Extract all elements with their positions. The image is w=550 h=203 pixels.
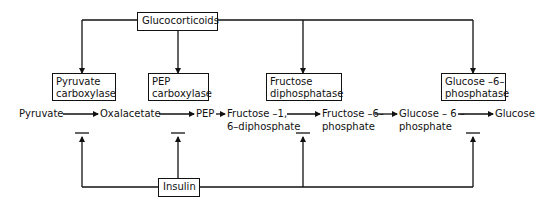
metabolite-label: 6–diphosphate xyxy=(227,121,300,134)
enzyme-pep-carboxylase: PEP carboxylase xyxy=(148,73,209,101)
metabolite-pep: PEP xyxy=(196,108,214,121)
metabolite-fructose-6-phosphate: Fructose –6– phosphate xyxy=(322,108,384,133)
enzyme-label-line1: Fructose xyxy=(270,76,338,88)
insulin-box: Insulin xyxy=(158,178,200,197)
metabolite-label: Glucose xyxy=(495,108,535,121)
diagram-connectors xyxy=(0,0,550,203)
enzyme-label-line2: carboxylase xyxy=(56,88,112,100)
metabolite-label: Glucose – 6 – xyxy=(399,108,465,121)
enzyme-label-line2: diphosphatase xyxy=(270,88,338,100)
enzyme-label-line2: carboxylase xyxy=(152,88,205,100)
enzyme-fructose-diphosphatase: Fructose diphosphatase xyxy=(266,73,342,101)
metabolite-fructose-1-6-diphosphate: Fructose –1, 6–diphosphate xyxy=(227,108,300,133)
enzyme-label-line1: PEP xyxy=(152,76,205,88)
metabolite-label: Oxalacetate xyxy=(100,108,161,121)
enzyme-label-line1: Glucose –6– xyxy=(445,76,502,88)
metabolite-label: Pyruvate xyxy=(19,108,64,121)
insulin-label: Insulin xyxy=(163,181,196,192)
enzyme-label-line2: phosphatase xyxy=(445,88,502,100)
metabolite-label: PEP xyxy=(196,108,214,121)
metabolite-label: phosphate xyxy=(399,121,465,134)
metabolite-glucose-6-phosphate: Glucose – 6 – phosphate xyxy=(399,108,465,133)
metabolite-label: phosphate xyxy=(322,121,384,134)
metabolite-pyruvate: Pyruvate xyxy=(19,108,64,121)
enzyme-label-line1: Pyruvate xyxy=(56,76,112,88)
enzyme-pyruvate-carboxylase: Pyruvate carboxylase xyxy=(52,73,116,101)
metabolite-label: Fructose –1, xyxy=(227,108,300,121)
metabolite-label: Fructose –6– xyxy=(322,108,384,121)
glucocorticoids-label: Glucocorticoids xyxy=(142,15,219,26)
glucocorticoids-box: Glucocorticoids xyxy=(137,12,218,31)
metabolite-glucose: Glucose xyxy=(495,108,535,121)
metabolite-oxalacetate: Oxalacetate xyxy=(100,108,161,121)
enzyme-glucose-6-phosphatase: Glucose –6– phosphatase xyxy=(441,73,506,101)
